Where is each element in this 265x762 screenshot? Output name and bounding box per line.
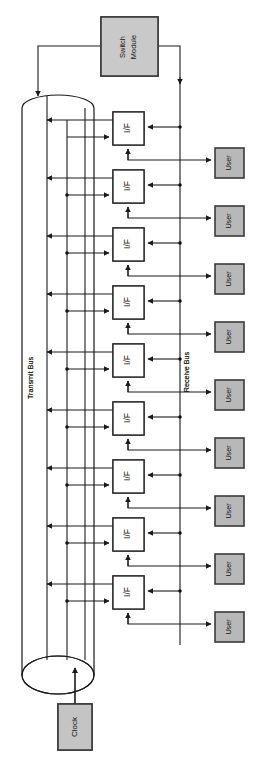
- interface-to-user: [128, 323, 211, 334]
- receive-bus-junction: [178, 299, 182, 303]
- clock-label-overlay: Clock: [70, 716, 79, 737]
- receive-bus-junction: [178, 183, 182, 187]
- interface-label-overlay: I/F: [122, 297, 132, 307]
- interface-label-overlay: I/F: [122, 413, 132, 423]
- user-label: User: [224, 503, 233, 519]
- interface-to-user: [128, 265, 211, 276]
- interface-label-overlay: I/F: [122, 587, 132, 597]
- interface-to-user: [128, 555, 211, 566]
- receive-bus-junction: [178, 589, 182, 593]
- interface-label-overlay: I/F: [122, 123, 132, 133]
- user-label: User: [224, 155, 233, 171]
- stage-group: I/F User: [47, 402, 244, 468]
- transmit-bus-label-overlay: Transmit Bus: [26, 357, 35, 399]
- network-block-diagram: Transmit Bus Receive Bus Switch Module C…: [0, 0, 265, 762]
- interface-label-overlay: I/F: [122, 529, 132, 539]
- interface-label-overlay: I/F: [122, 239, 132, 249]
- diagram-canvas: Transmit Bus Receive Bus Switch Module C…: [0, 0, 265, 762]
- interface-label-overlay: I/F: [122, 355, 132, 365]
- user-label: User: [224, 213, 233, 229]
- stage-group: I/F User: [47, 170, 244, 236]
- stage-group: I/F User: [47, 112, 244, 178]
- receive-bus-junction: [178, 531, 182, 535]
- receive-bus-label-overlay: Receive Bus: [182, 351, 191, 392]
- switch-to-transmit-path: [38, 46, 101, 96]
- switch-module-label-line2-overlay: Module: [129, 35, 138, 59]
- stage-group: I/F User: [47, 518, 244, 584]
- transmit-bus-base-ellipse-overlay: [22, 656, 94, 694]
- user-label: User: [224, 561, 233, 577]
- stage-group: I/F User: [47, 286, 244, 352]
- interface-to-user: [128, 207, 211, 218]
- user-label: User: [224, 445, 233, 461]
- stage-group: I/F User: [47, 576, 244, 642]
- user-label: User: [224, 271, 233, 287]
- receive-bus-junction: [178, 241, 182, 245]
- switch-output-to-transmit-bus: [38, 46, 101, 96]
- receive-bus-junction: [178, 473, 182, 477]
- stage-group: I/F User: [47, 460, 244, 526]
- interface-to-user: [128, 497, 211, 508]
- user-label: User: [224, 619, 233, 635]
- interface-to-user: [128, 149, 211, 160]
- user-label: User: [224, 329, 233, 345]
- switch-module-label-line1-overlay: Switch: [118, 36, 127, 58]
- receive-to-switch-path: [158, 46, 180, 60]
- interface-label-overlay: I/F: [122, 471, 132, 481]
- stage-group: I/F User: [47, 344, 244, 410]
- interface-to-user: [128, 381, 211, 392]
- interface-to-user: [128, 613, 211, 624]
- interface-label-overlay: I/F: [122, 181, 132, 191]
- stage-group: I/F User: [47, 228, 244, 294]
- user-label: User: [224, 387, 233, 403]
- receive-bus-into-switch: [158, 46, 180, 60]
- receive-bus-junction: [178, 415, 182, 419]
- interface-to-user: [128, 439, 211, 450]
- receive-bus-junction: [178, 125, 182, 129]
